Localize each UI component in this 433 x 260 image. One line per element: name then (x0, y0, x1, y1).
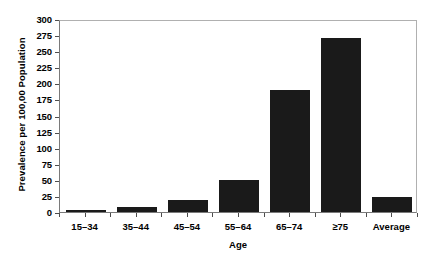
bar (270, 90, 310, 212)
x-axis-tick-label: 45–54 (161, 220, 212, 234)
x-axis-tick-marks (59, 213, 417, 218)
x-axis-tick-mark (238, 213, 239, 217)
x-axis-tick-mark (136, 213, 137, 217)
y-axis-tick-label: 50 (18, 175, 52, 187)
y-axis-tick-label: 200 (18, 78, 52, 90)
bar-group (367, 21, 418, 212)
y-axis-tick-label: 75 (18, 159, 52, 171)
bar (219, 180, 259, 212)
x-axis-tick-mark (110, 213, 111, 217)
bar-group (60, 21, 111, 212)
bar (372, 197, 412, 212)
x-axis-tick-mark (161, 213, 162, 217)
bar-group (213, 21, 264, 212)
x-axis-tick-mark (212, 213, 213, 217)
y-axis-tick-label: 250 (18, 46, 52, 58)
bar (66, 210, 106, 212)
x-axis-tick-mark (340, 213, 341, 217)
x-axis-tick-mark (417, 213, 418, 217)
y-axis-tick-label: 175 (18, 94, 52, 106)
y-axis-tick-label: 300 (18, 14, 52, 26)
y-axis-tick-label: 0 (18, 207, 52, 219)
bar-group (111, 21, 162, 212)
x-axis-tick-labels: 15–3435–4445–5455–6465–74≥75Average (59, 220, 417, 234)
bars-layer (60, 21, 416, 212)
y-axis-tick-label: 25 (18, 191, 52, 203)
x-axis-tick-mark (315, 213, 316, 217)
x-axis-tick-mark (289, 213, 290, 217)
x-axis-title: Age (59, 238, 417, 252)
bar-group (265, 21, 316, 212)
x-axis-tick-label: 15–34 (59, 220, 110, 234)
x-axis-tick-mark (59, 213, 60, 217)
y-axis-tick-label: 150 (18, 111, 52, 123)
x-axis-tick-label: 55–64 (212, 220, 263, 234)
x-axis-tick-label: ≥75 (315, 220, 366, 234)
bar-group (316, 21, 367, 212)
y-axis-tick-labels: 0255075100125150175200225250275300 (18, 20, 52, 213)
x-axis-tick-mark (366, 213, 367, 217)
bar-group (162, 21, 213, 212)
plot-area (59, 20, 417, 213)
y-axis-tick-label: 225 (18, 62, 52, 74)
x-axis-tick-label: Average (366, 220, 417, 234)
y-axis-tick-label: 125 (18, 127, 52, 139)
bar (168, 200, 208, 212)
x-axis-tick-mark (391, 213, 392, 217)
x-axis-tick-mark (187, 213, 188, 217)
bar-chart-figure: Prevalence per 100,00 Population 0255075… (0, 0, 433, 260)
bar (117, 207, 157, 212)
x-axis-tick-label: 35–44 (110, 220, 161, 234)
y-axis-tick-label: 275 (18, 30, 52, 42)
x-axis-tick-mark (264, 213, 265, 217)
x-axis-tick-mark (85, 213, 86, 217)
x-axis-tick-label: 65–74 (264, 220, 315, 234)
bar (321, 38, 361, 212)
y-axis-tick-label: 100 (18, 143, 52, 155)
